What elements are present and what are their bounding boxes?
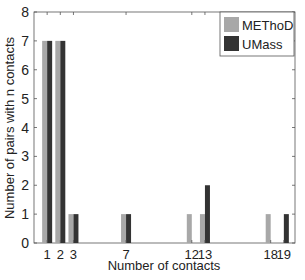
y-tick-label: 0 [21,235,29,251]
bar-umass-2 [60,41,65,243]
bar-method-12 [187,214,192,243]
bar-umass-3 [73,214,78,243]
bar-chart: 012345678 123712131819 Number of contact… [0,0,305,280]
y-tick-label: 7 [21,33,29,49]
y-tick-label: 4 [21,120,29,136]
bar-method-7 [121,214,126,243]
bar-umass-7 [126,214,131,243]
legend-label-umass: UMass [242,37,283,52]
y-tick-label: 8 [21,4,29,20]
y-axis-label: Number of pairs with n contacts [2,36,17,219]
y-tick-label: 3 [21,148,29,164]
bar-umass-19 [284,214,289,243]
y-tick-label: 5 [21,91,29,107]
x-tick-label: 3 [70,247,77,262]
bar-method-18 [266,214,271,243]
bar-method-3 [68,214,73,243]
legend-swatch-umass [224,36,239,51]
bar-method-2 [55,41,60,243]
y-tick-label: 6 [21,62,29,78]
legend: METhoD UMass [220,12,294,56]
legend-swatch-method [224,17,239,32]
x-axis-label: Number of contacts [108,258,221,273]
bar-umass-13 [205,185,210,243]
x-tick-label: 2 [57,247,64,262]
legend-label-method: METhoD [242,18,293,33]
bar-umass-1 [47,41,52,243]
y-tick-label: 1 [21,206,29,222]
bar-method-1 [42,41,47,243]
x-tick-label: 19 [277,247,291,262]
bar-method-13 [200,214,205,243]
x-tick-label: 1 [44,247,51,262]
y-tick-label: 2 [21,177,29,193]
